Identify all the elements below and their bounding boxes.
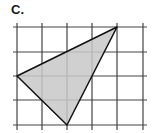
- grid-diagram: [0, 0, 154, 133]
